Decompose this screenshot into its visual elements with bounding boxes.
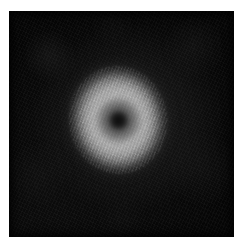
image-viewport bbox=[0, 0, 240, 249]
bright-ring-feature bbox=[62, 60, 174, 181]
dark-image-field bbox=[9, 11, 234, 237]
